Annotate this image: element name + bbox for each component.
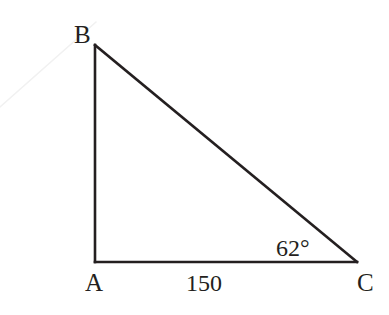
angle-label-c: 62° [276, 236, 310, 260]
vertex-label-a: A [85, 270, 103, 295]
side-length-label-ac: 150 [186, 271, 222, 295]
figure-background [0, 0, 389, 315]
triangle-figure: B A C 150 62° [0, 0, 389, 315]
vertex-label-b: B [74, 22, 91, 47]
triangle-drawing [0, 0, 389, 315]
vertex-label-c: C [357, 270, 374, 295]
